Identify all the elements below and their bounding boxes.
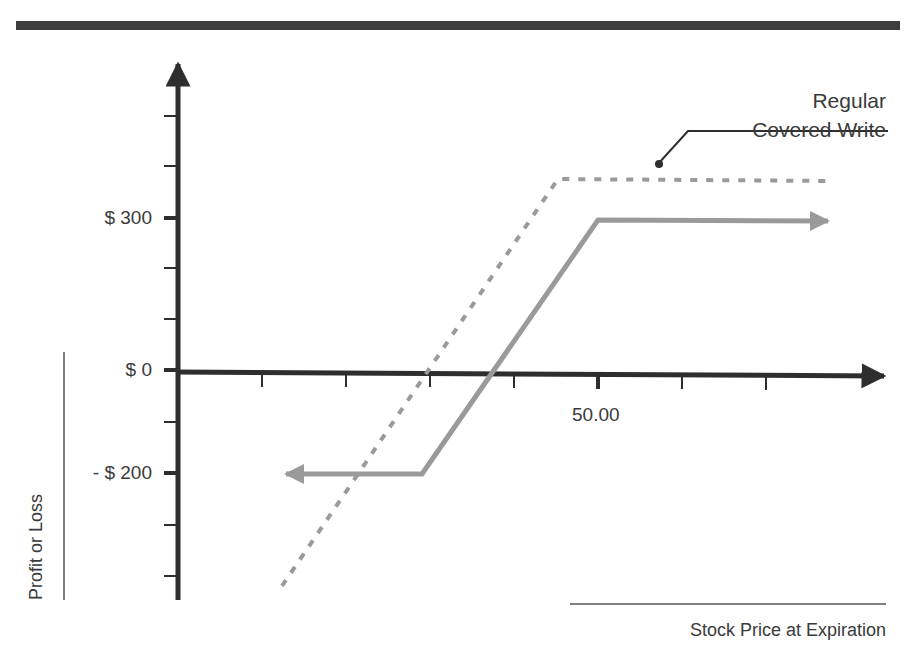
y-tick-label-0: $ 0 — [42, 359, 152, 381]
protected-covered-write-line — [286, 220, 828, 474]
y-tick-label-300: $ 300 — [42, 207, 152, 229]
x-tick-label-50: 50.00 — [572, 404, 620, 426]
x-axis-title: Stock Price at Expiration — [690, 620, 886, 641]
y-axis — [164, 64, 178, 600]
legend-line-1: Regular — [752, 86, 886, 115]
leader-dot — [655, 160, 663, 168]
y-axis-title: Profit or Loss — [26, 494, 47, 600]
x-axis — [176, 372, 884, 390]
y-tick-label-neg200: - $ 200 — [42, 462, 152, 484]
regular-covered-write-line — [282, 179, 832, 586]
legend-annotation: Regular Covered Write — [752, 86, 886, 144]
legend-line-2: Covered Write — [752, 115, 886, 144]
